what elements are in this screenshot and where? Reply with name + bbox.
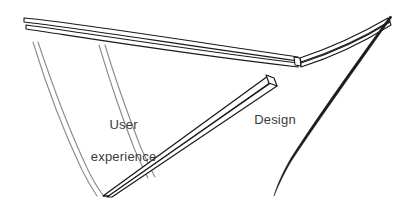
upper-right-diagonal-band — [300, 18, 391, 67]
right-tapered-diagonal — [274, 16, 392, 196]
top-ribbon — [24, 18, 298, 67]
label-user-experience: User experience — [68, 101, 164, 181]
label-design: Design — [243, 112, 307, 128]
label-user-experience-line1: User — [110, 117, 138, 132]
sketch-canvas: User experience Design — [0, 0, 406, 220]
sketch-drawing — [0, 0, 406, 220]
label-user-experience-line2: experience — [91, 149, 157, 164]
